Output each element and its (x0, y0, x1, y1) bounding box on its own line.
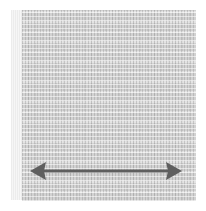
double-arrow-horizontal-icon (30, 160, 182, 182)
